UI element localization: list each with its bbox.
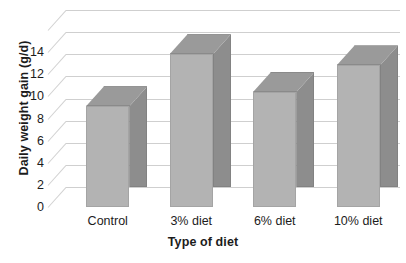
y-axis-tick-label: 4 — [18, 156, 44, 170]
gridline-riser — [48, 32, 67, 53]
y-axis-tick-label: 2 — [18, 178, 44, 192]
y-axis-tick-label: 14 — [18, 45, 44, 59]
bar-side-face — [213, 34, 231, 187]
y-axis-tick-label: 6 — [18, 134, 44, 148]
y-axis-tick-label: 10 — [18, 89, 44, 103]
x-axis-title: Type of diet — [0, 235, 406, 249]
x-axis-tick-label: 10% diet — [334, 214, 383, 228]
gridline-riser — [48, 77, 67, 98]
bar-front-face — [86, 106, 129, 207]
gridline-riser — [48, 99, 67, 120]
bar-front-face — [253, 92, 296, 207]
gridline-riser — [48, 54, 67, 75]
y-axis-tick-label: 0 — [18, 200, 44, 214]
x-axis-tick-label: 6% diet — [254, 214, 296, 228]
bar-column — [86, 8, 147, 213]
gridline-riser — [48, 10, 67, 31]
plot-area — [48, 8, 400, 213]
bar-chart: Daily weight gain (g/d) 02468101214 Cont… — [0, 0, 406, 263]
bar-side-face — [296, 72, 314, 187]
bar-front-face — [337, 65, 380, 207]
bar-column — [253, 8, 314, 213]
y-axis-tick-labels: 02468101214 — [14, 0, 44, 263]
gridline-riser — [48, 121, 67, 142]
x-axis-tick-label: 3% diet — [170, 214, 212, 228]
x-axis-tick-labels: Control3% diet6% diet10% diet — [48, 214, 400, 236]
bar-column — [337, 8, 398, 213]
x-axis-tick-label: Control — [88, 214, 128, 228]
y-axis-tick-label: 8 — [18, 112, 44, 126]
y-axis-tick-label: 12 — [18, 67, 44, 81]
gridline-riser — [48, 143, 67, 164]
bar-column — [170, 8, 231, 213]
bar-front-face — [170, 54, 213, 207]
gridline-riser — [48, 187, 67, 208]
gridline-riser — [48, 165, 67, 186]
bar-side-face — [380, 45, 398, 187]
